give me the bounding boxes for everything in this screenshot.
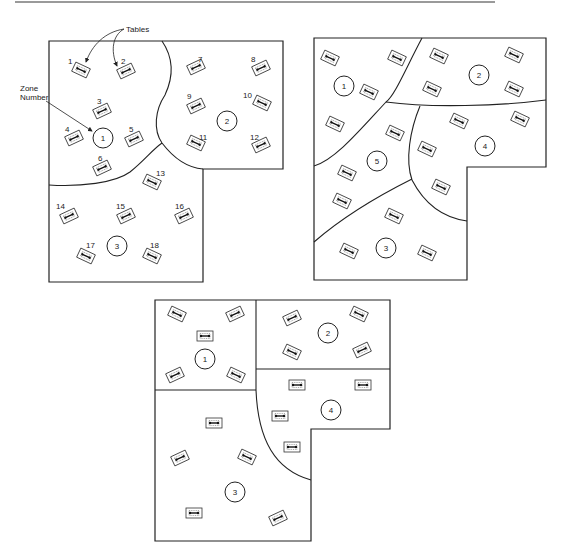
svg-text:12: 12 (250, 133, 259, 142)
layout-a: 1 2 3 4 5 6 7 8 9 10 11 12 13 14 15 16 1… (20, 25, 283, 282)
svg-text:13: 13 (156, 169, 165, 178)
floor-plan-diagrams: 1 2 3 4 5 6 7 8 9 10 11 12 13 14 15 16 1… (0, 0, 573, 560)
svg-text:2: 2 (477, 71, 482, 80)
svg-text:Number: Number (20, 93, 49, 102)
layout-c: 1 2 3 4 (155, 300, 390, 541)
svg-text:17: 17 (86, 241, 95, 250)
svg-text:16: 16 (175, 202, 184, 211)
svg-text:Tables: Tables (126, 25, 149, 34)
svg-text:3: 3 (115, 242, 120, 251)
svg-text:4: 4 (329, 406, 334, 415)
svg-text:18: 18 (150, 241, 159, 250)
svg-text:Zone: Zone (20, 84, 39, 93)
svg-text:1: 1 (203, 355, 208, 364)
layout-b: 1 2 3 4 5 (314, 38, 546, 280)
svg-text:3: 3 (384, 244, 389, 253)
svg-text:14: 14 (56, 202, 65, 211)
svg-text:2: 2 (326, 329, 331, 338)
svg-text:1: 1 (68, 57, 73, 66)
svg-text:1: 1 (342, 82, 347, 91)
svg-text:5: 5 (375, 157, 380, 166)
svg-text:10: 10 (243, 91, 252, 100)
svg-text:6: 6 (98, 154, 103, 163)
svg-text:2: 2 (121, 57, 126, 66)
svg-text:1: 1 (101, 134, 106, 143)
svg-text:11: 11 (199, 133, 208, 142)
svg-text:3: 3 (97, 97, 102, 106)
svg-text:4: 4 (65, 125, 70, 134)
svg-text:15: 15 (116, 202, 125, 211)
svg-text:2: 2 (225, 117, 230, 126)
svg-text:8: 8 (251, 55, 256, 64)
svg-text:4: 4 (483, 142, 488, 151)
svg-text:3: 3 (233, 488, 238, 497)
svg-text:9: 9 (187, 92, 192, 101)
svg-text:5: 5 (129, 125, 134, 134)
svg-text:7: 7 (198, 55, 203, 64)
